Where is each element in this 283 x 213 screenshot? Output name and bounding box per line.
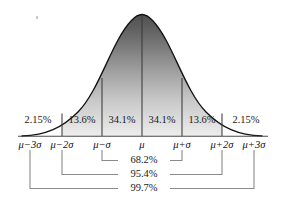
band-label-right-tail: 2.15%	[220, 115, 272, 126]
bracket-label-997: 99.7%	[118, 183, 170, 194]
band-label-left-tail: 2.15%	[12, 115, 64, 126]
axis-tick-minus-1-sigma: μ−σ	[80, 140, 124, 151]
bracket-label-95: 95.4%	[118, 169, 170, 180]
normal-distribution-figure: 2.15% 13.6% 34.1% 34.1% 13.6% 2.15% μ−3σ…	[0, 0, 283, 213]
band-label-right-outer: 13.6%	[182, 115, 222, 126]
band-label-left-outer: 13.6%	[62, 115, 102, 126]
band-label-right-inner: 34.1%	[142, 115, 182, 126]
axis-tick-minus-2-sigma: μ−2σ	[38, 140, 86, 151]
axis-tick-mu: μ	[130, 140, 154, 151]
bracket-label-68: 68.2%	[118, 155, 170, 166]
axis-tick-plus-3-sigma: μ+3σ	[230, 140, 278, 151]
band-label-left-inner: 34.1%	[102, 115, 142, 126]
